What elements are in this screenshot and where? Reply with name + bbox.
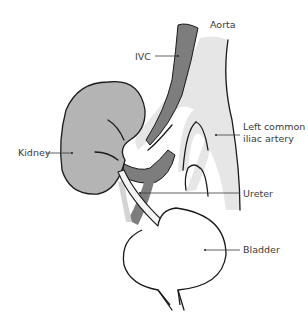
label-ureter: Ureter bbox=[139, 188, 273, 199]
label-ivc: IVC bbox=[135, 51, 179, 62]
bladder-label: Bladder bbox=[243, 244, 280, 255]
aorta-label: Aorta bbox=[210, 19, 236, 30]
ivc-label: IVC bbox=[135, 51, 151, 62]
left-common-iliac-label-line1: Left common bbox=[243, 121, 305, 132]
kidney-label: Kidney bbox=[18, 147, 51, 158]
left-common-iliac-label-line2: iliac artery bbox=[243, 133, 294, 144]
ureter-label: Ureter bbox=[243, 188, 273, 199]
kidney-transplant-diagram: Aorta IVC Left common iliac artery Kidne… bbox=[0, 0, 308, 313]
label-aorta: Aorta bbox=[210, 19, 236, 30]
